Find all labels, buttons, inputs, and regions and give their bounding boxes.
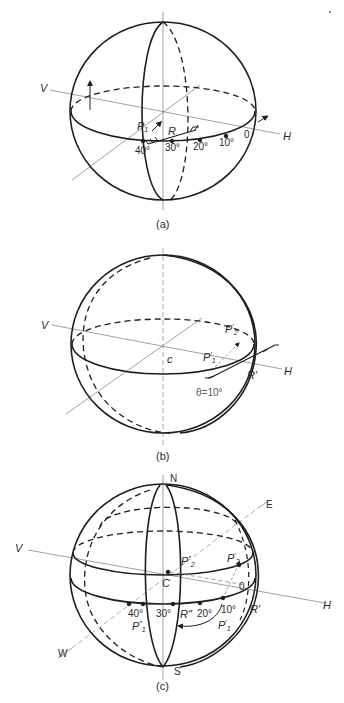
- caption-c: (c): [156, 681, 169, 692]
- tick-c-20: 20°: [197, 609, 212, 619]
- tick-a-20: 20°: [193, 142, 208, 152]
- tick-c-10: 10°: [221, 605, 236, 615]
- label-a-p1: P1: [137, 121, 148, 133]
- label-c-p1doubleprime: P″1: [132, 620, 146, 633]
- label-b-center: c: [167, 354, 173, 365]
- label-a-r: R: [168, 126, 176, 137]
- label-c-rdoubleprime: R″: [180, 609, 192, 620]
- label-c-p2doubleprime: P″2: [181, 555, 195, 568]
- caption-a: (a): [156, 219, 169, 230]
- figure-stage: V H P1 R 40° 30° 20° 10° 0 (a) V H c P′2…: [0, 0, 344, 703]
- label-c-v: V: [15, 543, 22, 554]
- label-b-h: H: [284, 366, 292, 377]
- tick-a-30: 30°: [165, 143, 180, 153]
- panel-c-sphere: [28, 475, 325, 680]
- label-c-w: W: [58, 649, 67, 659]
- panel-b-sphere: [52, 248, 282, 445]
- label-c-center: C: [162, 578, 170, 589]
- label-a-h: H: [283, 131, 291, 142]
- label-c-e: E: [266, 500, 273, 510]
- label-c-p1prime: P′1: [218, 619, 231, 632]
- label-b-v: V: [41, 320, 48, 331]
- tick-a-40: 40°: [135, 146, 150, 156]
- label-b-theta: θ=10°: [196, 388, 223, 398]
- tick-a-0: 0: [244, 130, 250, 140]
- label-c-rprime: R′: [250, 604, 260, 615]
- label-c-h: H: [323, 600, 331, 611]
- tick-a-10: 10°: [219, 138, 234, 148]
- label-b-p1prime: P′1: [203, 351, 216, 364]
- label-c-n: N: [170, 474, 177, 484]
- tick-c-40: 40°: [128, 609, 143, 619]
- stray-mark: [329, 11, 331, 13]
- label-c-p2prime: P′2: [227, 552, 240, 565]
- label-b-rprime: R′: [247, 370, 257, 381]
- diagram-svg: [0, 0, 344, 703]
- label-c-zero: 0: [239, 582, 245, 592]
- label-a-v: V: [40, 83, 47, 94]
- panel-a-sphere: [50, 12, 280, 210]
- tick-c-30: 30°: [156, 609, 171, 619]
- caption-b: (b): [156, 451, 169, 462]
- diagonal-axis: [72, 85, 200, 180]
- label-c-s: S: [174, 667, 181, 677]
- label-b-p2prime: P′2: [225, 323, 238, 336]
